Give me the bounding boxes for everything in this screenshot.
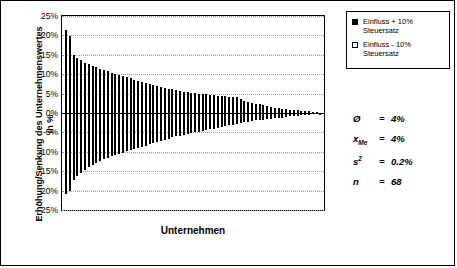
bar-negative: [99, 113, 101, 161]
statistic-row: Ø=4%: [353, 113, 453, 124]
statistic-value: 0.2%: [391, 156, 453, 167]
bar-series-container: [62, 16, 324, 210]
bar-positive: [107, 71, 109, 113]
bar-negative: [205, 113, 207, 130]
plot-area: 25%20%15%10%5%0%-5%-10%-15%-20%-25%: [61, 15, 325, 211]
bar-negative: [137, 113, 139, 148]
bar-negative: [243, 113, 245, 122]
bar-positive: [88, 64, 90, 113]
bar-negative: [240, 113, 242, 123]
bar-positive: [76, 58, 78, 113]
bar-positive: [243, 101, 245, 113]
bar-positive: [205, 94, 207, 113]
bar-positive: [247, 102, 249, 113]
bar-positive: [262, 105, 264, 113]
bar-negative: [88, 113, 90, 167]
legend-label-plus10: Einfluss + 10% Steuersatz: [363, 17, 413, 35]
bar-negative: [293, 113, 295, 116]
bar-negative: [73, 113, 75, 180]
bar-positive: [103, 70, 105, 113]
bar-negative: [183, 113, 185, 135]
bar-positive: [130, 78, 132, 113]
bar-positive: [190, 93, 192, 113]
chart-panel: Erhöhung/Senkung des Unternehmenswertes …: [9, 9, 339, 259]
bar-negative: [316, 113, 318, 114]
y-axis-tick-label: -15%: [38, 166, 58, 176]
bar-negative: [164, 113, 166, 140]
statistic-value: 4%: [391, 133, 453, 144]
y-axis-tick-label: -20%: [38, 186, 58, 196]
bar-negative: [187, 113, 189, 134]
bar-positive: [179, 91, 181, 113]
y-axis-tick-label: 10%: [41, 69, 58, 79]
y-axis-tick-label: 15%: [41, 50, 58, 60]
bar-positive: [80, 60, 82, 113]
bar-negative: [80, 113, 82, 173]
bar-positive: [152, 85, 154, 113]
statistic-symbol: Ø: [353, 113, 379, 124]
bar-negative: [297, 113, 299, 116]
bar-negative: [65, 113, 67, 194]
bar-negative: [84, 113, 86, 170]
bar-negative: [103, 113, 105, 159]
bar-negative: [152, 113, 154, 143]
bar-negative: [262, 113, 264, 120]
legend-label-minus10-line2: Steuersatz: [363, 49, 399, 58]
bar-positive: [69, 36, 71, 113]
bar-negative: [304, 113, 306, 115]
bar-positive: [224, 96, 226, 113]
bar-positive: [183, 92, 185, 113]
bar-positive: [73, 55, 75, 113]
bar-positive: [171, 89, 173, 113]
bar-negative: [194, 113, 196, 132]
bar-negative: [107, 113, 109, 158]
bar-negative: [76, 113, 78, 176]
bar-negative: [209, 113, 211, 129]
bar-negative: [247, 113, 249, 122]
bar-positive: [122, 76, 124, 113]
bar-positive: [240, 99, 242, 113]
bar-negative: [130, 113, 132, 150]
bar-negative: [319, 113, 321, 114]
gridline: [62, 210, 324, 212]
bar-negative: [175, 113, 177, 136]
y-axis-tick-label: 5%: [46, 89, 58, 99]
bar-negative: [255, 113, 257, 120]
statistic-row: n=68: [353, 176, 453, 187]
statistic-symbol: xMe: [353, 133, 379, 146]
bar-positive: [255, 104, 257, 113]
y-axis-tick-label: -10%: [38, 147, 58, 157]
bar-positive: [217, 96, 219, 113]
statistics-block: Ø=4%xMe=4%s2=0.2%n=68: [353, 113, 453, 196]
bar-positive: [168, 89, 170, 113]
bar-positive: [160, 87, 162, 113]
bar-negative: [266, 113, 268, 119]
bar-negative: [198, 113, 200, 132]
bar-positive: [149, 84, 151, 113]
bar-negative: [141, 113, 143, 147]
statistic-row: xMe=4%: [353, 133, 453, 146]
statistic-equals: =: [379, 156, 391, 167]
bar-negative: [114, 113, 116, 155]
bar-negative: [232, 113, 234, 125]
bar-positive: [156, 86, 158, 113]
bar-negative: [270, 113, 272, 119]
bar-positive: [266, 106, 268, 113]
bar-negative: [308, 113, 310, 115]
y-axis-tick-label: -5%: [43, 127, 58, 137]
bar-negative: [274, 113, 276, 118]
bar-positive: [99, 69, 101, 113]
bar-negative: [190, 113, 192, 133]
bar-positive: [209, 95, 211, 113]
bar-positive: [92, 66, 94, 113]
bar-positive: [126, 77, 128, 113]
statistic-row: s2=0.2%: [353, 155, 453, 167]
bar-negative: [160, 113, 162, 141]
bar-negative: [300, 113, 302, 115]
bar-positive: [114, 74, 116, 113]
bar-negative: [133, 113, 135, 149]
statistic-equals: =: [379, 133, 391, 144]
bar-negative: [236, 113, 238, 124]
legend-label-plus10-line2: Steuersatz: [363, 26, 399, 35]
bar-negative: [228, 113, 230, 125]
